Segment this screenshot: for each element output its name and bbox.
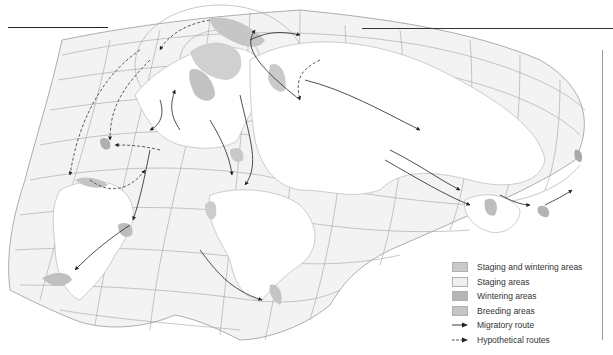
solid-arrow-icon [452,320,468,330]
legend-label: Migratory route [477,320,534,330]
legend-label: Wintering areas [477,291,537,301]
legend-label: Staging areas [477,277,529,287]
side-rule [602,50,603,340]
legend-label: Hypothetical routes [477,335,550,345]
dashed-arrow-icon [452,335,468,345]
legend-item-migratory-route: Migratory route [452,318,602,333]
legend-item-wintering: Wintering areas [452,289,602,304]
swatch-breeding [452,306,468,316]
swatch-wintering [452,291,468,301]
breeding-area-pacific-island [574,150,582,162]
legend-item-hypothetical-routes: Hypothetical routes [452,333,602,348]
top-rule [8,27,108,28]
top-rule-right [362,28,613,29]
wintering-area-new-guinea [538,206,550,217]
legend-item-staging-wintering: Staging and wintering areas [452,260,602,275]
swatch-staging [452,277,468,287]
legend-item-breeding: Breeding areas [452,304,602,319]
legend: Staging and wintering areas Staging area… [452,260,602,347]
legend-label: Staging and wintering areas [477,262,582,272]
legend-label: Breeding areas [477,306,535,316]
swatch-staging-wintering [452,262,468,272]
legend-item-staging: Staging areas [452,275,602,290]
